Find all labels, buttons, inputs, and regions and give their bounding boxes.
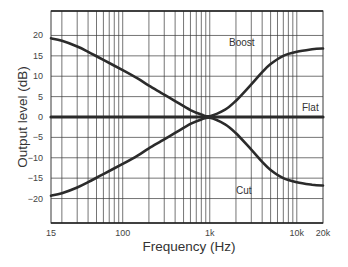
y-tick-label: 20	[33, 30, 43, 40]
cut-curve	[51, 118, 323, 196]
y-tick-label: −20	[28, 194, 43, 204]
y-tick-label: 10	[33, 71, 43, 81]
boost-label: Boost	[229, 37, 255, 48]
x-tick-label: 10k	[290, 228, 305, 238]
curves	[51, 38, 323, 195]
x-tick-label: 15	[46, 228, 56, 238]
tick-labels: −20−15−10−505101520151001k10k20k	[28, 30, 331, 238]
y-tick-label: −10	[28, 153, 43, 163]
y-tick-label: 15	[33, 51, 43, 61]
y-tick-label: −5	[33, 132, 43, 142]
x-tick-label: 20k	[316, 228, 331, 238]
boost-curve	[51, 38, 323, 116]
frequency-response-chart: −20−15−10−505101520151001k10k20k Frequen…	[0, 0, 348, 267]
cut-label: Cut	[236, 185, 252, 196]
x-axis-title: Frequency (Hz)	[142, 239, 235, 254]
y-tick-label: 0	[38, 112, 43, 122]
x-tick-label: 1k	[205, 228, 215, 238]
flat-label: Flat	[302, 102, 319, 113]
y-axis-title: Output level (dB)	[15, 66, 30, 167]
x-tick-label: 100	[115, 228, 130, 238]
y-tick-label: −15	[28, 173, 43, 183]
y-tick-label: 5	[38, 92, 43, 102]
